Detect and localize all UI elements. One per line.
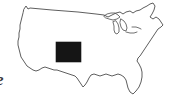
edge-partial-character: e bbox=[0, 70, 10, 90]
us-map-figure: e bbox=[0, 0, 185, 111]
highlighted-state-colorado bbox=[56, 42, 81, 62]
us-outline-path bbox=[18, 3, 163, 94]
us-map-svg bbox=[0, 0, 185, 111]
